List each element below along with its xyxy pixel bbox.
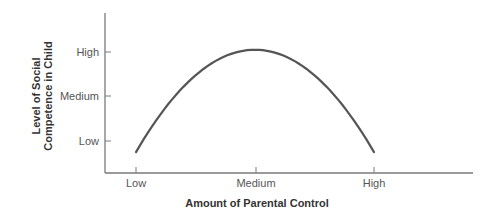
competence-curve (136, 50, 374, 152)
x-tick-label-medium: Medium (236, 177, 275, 189)
x-tick-label-high: High (363, 177, 386, 189)
x-ticks (136, 167, 374, 173)
y-tick-label-high: High (76, 46, 99, 58)
y-axis-title-line-1: Level of Social (30, 57, 42, 134)
inverted-u-chart: High Medium Low Low Medium High Amount o… (0, 0, 500, 211)
y-ticks (105, 52, 111, 141)
y-axis-title: Level of Social Competence in Child (30, 41, 54, 150)
y-tick-label-low: Low (79, 135, 99, 147)
y-axis-title-line-2: Competence in Child (42, 41, 54, 150)
x-tick-label-low: Low (126, 177, 146, 189)
y-tick-label-medium: Medium (60, 90, 99, 102)
x-axis-title: Amount of Parental Control (185, 197, 329, 209)
